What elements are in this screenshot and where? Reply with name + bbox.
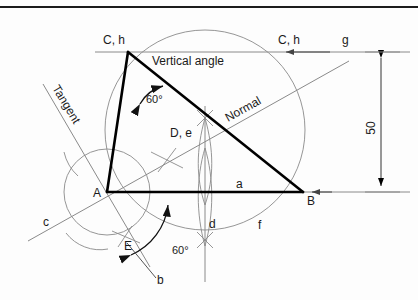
label-c-lower: c [43, 215, 49, 229]
bisector-arc-upper-left [64, 152, 78, 176]
label-c-h-left: C, h [103, 33, 125, 47]
geometry-diagram: C, h C, h g Vertical angle 60° D, e A B … [0, 0, 418, 300]
vesica-arc-left-lower [198, 148, 205, 246]
centre-cross-mark [151, 148, 183, 172]
label-dimension-50: 50 [364, 121, 378, 135]
vesica-arc-right-lower [205, 148, 212, 246]
label-g: g [342, 33, 349, 47]
label-angle-top: 60° [146, 93, 163, 105]
triangle-side-cb [128, 52, 303, 192]
bisector-arc-left [66, 233, 108, 250]
label-f: f [258, 218, 262, 232]
tangent-line [43, 84, 150, 267]
triangle-side-ac [107, 52, 128, 192]
label-b-lower: b [157, 273, 164, 287]
label-side-a: a [236, 177, 243, 191]
label-e-vertex: E [124, 239, 132, 253]
label-a-vertex: A [93, 186, 101, 200]
label-vertical-angle: Vertical angle [152, 54, 224, 68]
label-angle-bottom: 60° [172, 244, 189, 256]
label-d-e: D, e [170, 126, 192, 140]
normal-line [28, 61, 349, 241]
label-b-vertex: B [307, 194, 315, 208]
angle-arc-bottom [131, 205, 168, 255]
label-d: d [209, 217, 216, 231]
label-c-h-right: C, h [278, 33, 300, 47]
figure-canvas: C, h C, h g Vertical angle 60° D, e A B … [0, 0, 418, 300]
